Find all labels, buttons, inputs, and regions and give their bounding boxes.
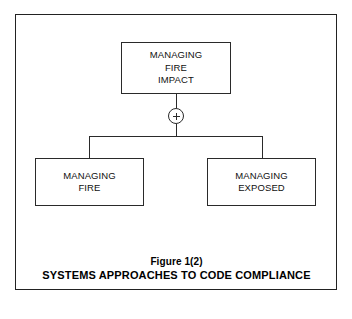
node-managing-fire: MANAGING FIRE: [35, 158, 144, 206]
node-top-line-2: FIRE: [165, 62, 187, 75]
node-left-line-1: MANAGING: [63, 170, 116, 183]
connector-top-to-junction: [176, 94, 177, 108]
plus-junction-icon: [168, 108, 184, 124]
node-managing-fire-impact: MANAGING FIRE IMPACT: [121, 42, 231, 94]
figure-canvas: MANAGING FIRE IMPACT MANAGING FIRE MANAG…: [0, 0, 352, 319]
connector-drop-right: [262, 136, 263, 158]
connector-split-bar: [89, 136, 263, 137]
node-top-line-1: MANAGING: [150, 49, 203, 62]
figure-border: MANAGING FIRE IMPACT MANAGING FIRE MANAG…: [15, 14, 337, 290]
connector-junction-to-bar: [176, 124, 177, 136]
figure-number: Figure 1(2): [17, 255, 336, 268]
node-managing-exposed: MANAGING EXPOSED: [207, 158, 316, 206]
plus-vertical-stroke: [176, 113, 177, 120]
node-top-line-3: IMPACT: [158, 74, 194, 87]
figure-caption: Figure 1(2) SYSTEMS APPROACHES TO CODE C…: [17, 255, 336, 282]
connector-drop-left: [89, 136, 90, 158]
node-right-line-2: EXPOSED: [238, 182, 285, 195]
node-left-line-2: FIRE: [78, 182, 100, 195]
cropped-text-remnant: [60, 0, 250, 5]
figure-title: SYSTEMS APPROACHES TO CODE COMPLIANCE: [17, 268, 336, 282]
node-right-line-1: MANAGING: [235, 170, 288, 183]
